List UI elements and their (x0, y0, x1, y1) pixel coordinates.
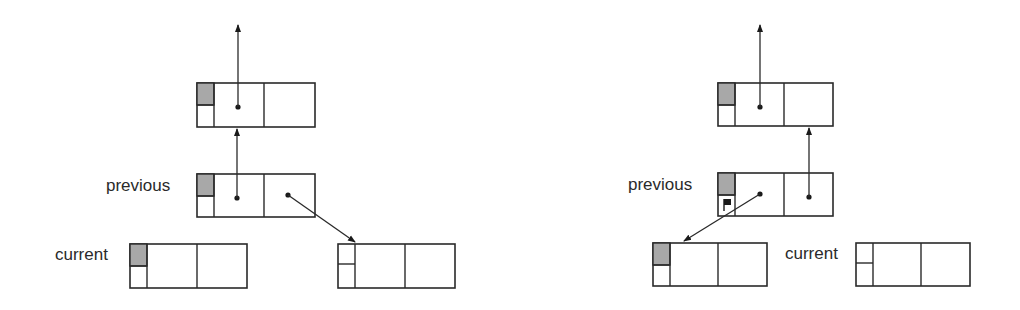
child-arrow (288, 195, 355, 242)
previous-label: previous (106, 176, 170, 195)
right-diagram: previous current (628, 25, 970, 286)
previous-label: previous (628, 175, 692, 194)
right-left-child-node (653, 243, 767, 286)
left-previous-node (197, 174, 315, 217)
current-label: current (55, 245, 108, 264)
left-new-node (338, 244, 455, 288)
left-top-node (197, 83, 315, 127)
current-label: current (785, 244, 838, 263)
right-current-node (856, 243, 970, 286)
right-top-node (718, 83, 833, 126)
left-diagram: previous current (55, 25, 455, 288)
left-current-node (130, 244, 247, 288)
tree-diagram-canvas: previous current (0, 0, 1020, 310)
